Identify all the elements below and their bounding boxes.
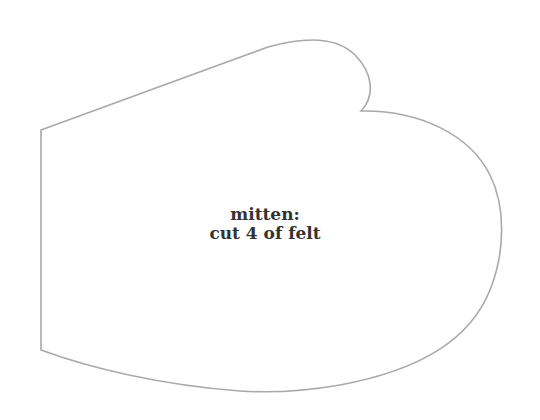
cut-instruction-label: cut 4 of felt xyxy=(180,224,350,243)
piece-name-label: mitten: xyxy=(180,205,350,224)
pattern-canvas: mitten: cut 4 of felt xyxy=(0,0,540,420)
